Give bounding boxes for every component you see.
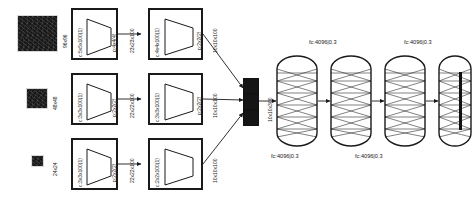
conv-label-s24-stage1: c:3x3x100(1) (78, 158, 83, 187)
fc-cylinder-icon (276, 55, 318, 147)
arrow-label-s24: 22x22x100 (130, 159, 135, 183)
pool-label-s24-stage1: p:2x2(2) (112, 164, 117, 182)
fc-3 (384, 55, 426, 147)
input-patch-medium (26, 88, 48, 109)
arrow-label-s96: 23x23x100 (130, 29, 135, 53)
output-label-s48: 10x10x100 (213, 94, 218, 118)
fc-cylinder-icon (384, 55, 426, 147)
input-label-large: 96x96 (63, 34, 68, 48)
output-label-s24: 10x10x100 (213, 159, 218, 183)
feature-concatenation (243, 78, 257, 124)
concat-segment (243, 78, 259, 94)
conv-label-s48-stage2: c:3x3x100(1) (155, 93, 160, 122)
fc-4 (438, 55, 472, 147)
arrow-label-s48: 22x22x100 (130, 94, 135, 118)
conv-label-s48-stage1: c:3x3x100(1) (78, 93, 83, 122)
fc-2-label: fc:4096|0.3 (309, 40, 337, 46)
pool-label-s48-stage2: p:2x2(2) (197, 97, 202, 115)
output-label-s96: 10x10x100 (213, 29, 218, 53)
fc-cylinder-icon (438, 55, 472, 147)
fc-3-label: fc:4096|0.3 (355, 154, 383, 160)
network-diagram: 96x96 48x48 24x24 c:5x5x100(1) p:4x4(4) … (0, 0, 475, 202)
fc-cylinder-icon (330, 55, 372, 147)
fc-2 (330, 55, 372, 147)
fc-1 (276, 55, 318, 147)
input-label-small: 24x24 (53, 162, 58, 176)
concat-segment (243, 94, 259, 110)
input-patch-small (31, 155, 44, 167)
output-layer (459, 72, 462, 130)
conv-label-s96-stage2: c:4x4x100(1) (155, 28, 160, 57)
concat-segment (243, 110, 259, 126)
conv-label-s96-stage1: c:5x5x100(1) (78, 28, 83, 57)
input-patch-large (17, 15, 58, 52)
fc-1-label: fc:4096|0.3 (271, 154, 299, 160)
concat-output-label: 10x10x300 (268, 98, 273, 122)
pool-label-s48-stage1: p:2x2(2) (112, 99, 117, 117)
pool-label-s96-stage1: p:4x4(4) (112, 34, 117, 52)
fc-4-label: fc:4096|0.3 (404, 40, 432, 46)
conv-label-s24-stage2: c:2x2x100(1) (155, 158, 160, 187)
input-label-medium: 48x48 (53, 96, 58, 110)
pool-label-s96-stage2: p:2x2(2) (197, 32, 202, 50)
